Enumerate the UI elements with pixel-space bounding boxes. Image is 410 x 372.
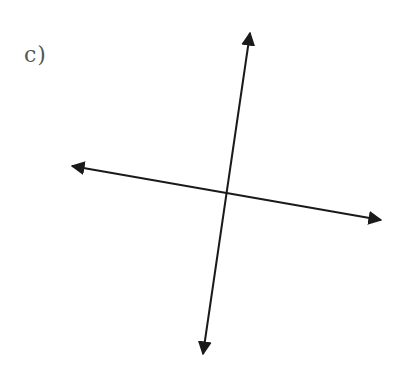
shallow-line	[72, 166, 381, 220]
intersecting-lines-diagram	[0, 0, 410, 372]
